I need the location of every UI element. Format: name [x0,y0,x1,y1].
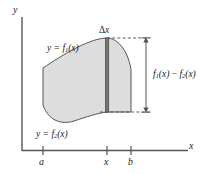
tick-label-x: x [104,157,108,167]
lower-curve-label-arg: (x) [57,129,68,139]
upper-curve-label-arg: (x) [68,43,79,53]
upper-curve-label-main: y = f [47,43,65,53]
lower-curve-label-main: y = f [36,129,54,139]
upper-curve-label: y = f1(x) [47,44,79,54]
y-axis-label: y [13,5,17,15]
area-between-curves-figure: y x a x b y = f1(x) y = f2(x) Δx f1(x) −… [0,0,201,174]
delta-x-label: Δx [99,26,109,36]
height-label-f2-arg: (x) [185,69,196,79]
height-label-minus: − [169,69,179,79]
x-axis-label: x [189,141,193,151]
height-label-f1-arg: (x) [159,69,170,79]
delta-x-variable: x [105,25,109,35]
strip-height-label: f1(x) − f2(x) [153,70,196,80]
tick-label-b: b [128,157,133,167]
lower-curve-label: y = f2(x) [36,130,68,140]
tick-label-a: a [39,157,44,167]
